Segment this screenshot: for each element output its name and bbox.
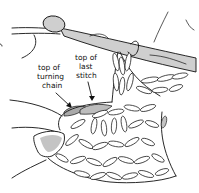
crochet-illustration: top of turning chain top of last stitch xyxy=(0,0,199,193)
svg-text:top of: top of xyxy=(38,63,60,72)
lower-hand xyxy=(10,100,65,178)
crochet-fabric xyxy=(48,52,188,183)
arrow-last-stitch xyxy=(88,82,92,98)
svg-text:turning: turning xyxy=(37,72,64,81)
label-turning-chain: top of turning chain xyxy=(37,63,72,108)
svg-text:top of: top of xyxy=(75,53,97,62)
arrow-turning-chain xyxy=(56,93,70,106)
svg-text:stitch: stitch xyxy=(76,71,97,80)
svg-text:last: last xyxy=(79,62,93,71)
label-last-stitch: top of last stitch xyxy=(75,53,97,101)
yarn-strands xyxy=(154,12,194,42)
svg-text:chain: chain xyxy=(42,81,63,90)
